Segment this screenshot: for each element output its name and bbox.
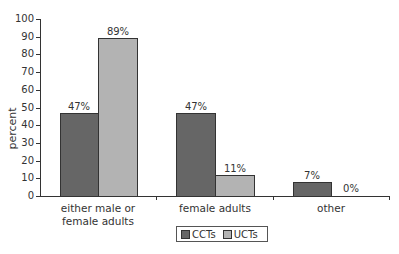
x-tick bbox=[273, 196, 274, 200]
y-tick bbox=[36, 108, 40, 109]
y-tick bbox=[36, 54, 40, 55]
value-label: 7% bbox=[292, 170, 332, 181]
y-tick-label: 0 bbox=[6, 191, 34, 201]
y-tick bbox=[36, 125, 40, 126]
value-label: 11% bbox=[215, 163, 255, 174]
legend-swatch-ccts bbox=[181, 230, 190, 239]
y-tick bbox=[36, 161, 40, 162]
legend-label-ccts: CCTs bbox=[192, 229, 216, 240]
value-label: 89% bbox=[98, 26, 138, 37]
x-tick bbox=[156, 196, 157, 200]
bar-ccts-either-male-or-female-adults bbox=[60, 113, 99, 197]
legend-swatch-ucts bbox=[223, 230, 232, 239]
y-tick bbox=[36, 90, 40, 91]
category-label: other bbox=[273, 202, 389, 215]
legend: CCTs UCTs bbox=[176, 226, 268, 242]
y-tick-label: 20 bbox=[6, 156, 34, 166]
bar-ccts-female-adults bbox=[176, 113, 216, 197]
bar-ucts-female-adults bbox=[215, 175, 255, 197]
y-tick-label: 90 bbox=[6, 32, 34, 42]
y-tick-label: 70 bbox=[6, 67, 34, 77]
category-label: either male or female adults bbox=[40, 202, 156, 228]
category-label: female adults bbox=[157, 202, 273, 215]
y-axis bbox=[40, 19, 41, 196]
value-label: 0% bbox=[331, 183, 371, 194]
y-tick bbox=[36, 196, 40, 197]
y-tick-label: 100 bbox=[6, 14, 34, 24]
value-label: 47% bbox=[176, 101, 216, 112]
y-tick bbox=[36, 72, 40, 73]
y-tick-label: 10 bbox=[6, 173, 34, 183]
value-label: 47% bbox=[59, 101, 99, 112]
y-tick-label: 30 bbox=[6, 138, 34, 148]
y-tick-label: 40 bbox=[6, 120, 34, 130]
bar-ccts-other bbox=[293, 182, 332, 197]
legend-label-ucts: UCTs bbox=[234, 229, 258, 240]
y-tick bbox=[36, 19, 40, 20]
x-tick bbox=[389, 196, 390, 200]
y-tick-label: 80 bbox=[6, 49, 34, 59]
y-tick-label: 60 bbox=[6, 85, 34, 95]
y-tick bbox=[36, 143, 40, 144]
y-tick bbox=[36, 178, 40, 179]
y-tick bbox=[36, 37, 40, 38]
bar-ucts-either-male-or-female-adults bbox=[98, 38, 138, 197]
y-tick-label: 50 bbox=[6, 103, 34, 113]
